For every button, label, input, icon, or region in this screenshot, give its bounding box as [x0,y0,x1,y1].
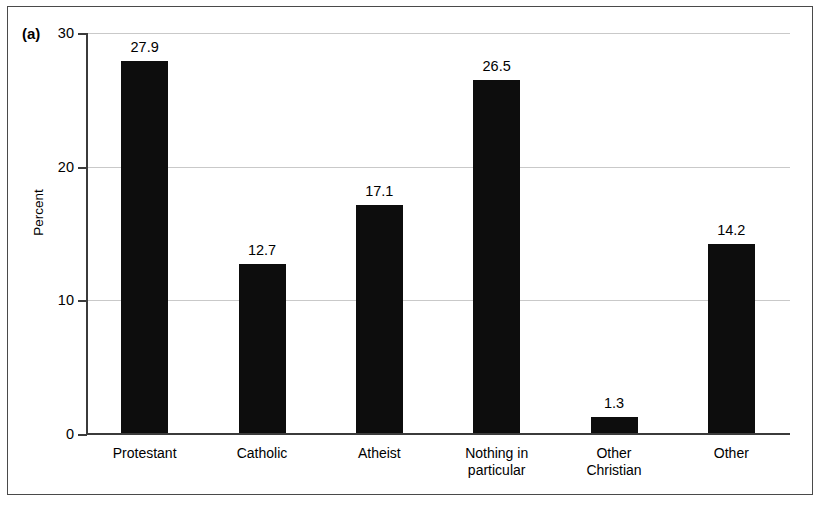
bar-value-label: 27.9 [105,40,185,55]
y-tick-mark [78,434,87,436]
bar [591,417,638,434]
y-tick-mark [78,300,87,302]
y-tick-mark [78,33,87,35]
y-axis-title: Percent [31,163,46,263]
bar-value-label: 14.2 [691,223,771,238]
bar-value-label: 1.3 [574,396,654,411]
y-tick-label: 30 [34,26,74,41]
bar [473,80,520,434]
gridline [86,33,790,34]
y-tick-mark [78,167,87,169]
y-tick-label: 20 [34,160,74,175]
bar [239,264,286,434]
bar-value-label: 17.1 [339,184,419,199]
bar [121,61,168,434]
bar [356,205,403,434]
y-axis-line [86,33,88,435]
bar-value-label: 26.5 [457,59,537,74]
x-tick-label: Other [661,445,801,462]
y-tick-label: 0 [34,427,74,442]
plot-area: 27.912.717.126.51.314.2 [86,33,790,434]
bar-chart: (a) Percent 27.912.717.126.51.314.2 0102… [0,0,827,509]
bar-value-label: 12.7 [222,243,302,258]
x-axis-line [86,433,790,435]
y-tick-label: 10 [34,293,74,308]
gridline [86,300,790,301]
gridline [86,167,790,168]
bar [708,244,755,434]
